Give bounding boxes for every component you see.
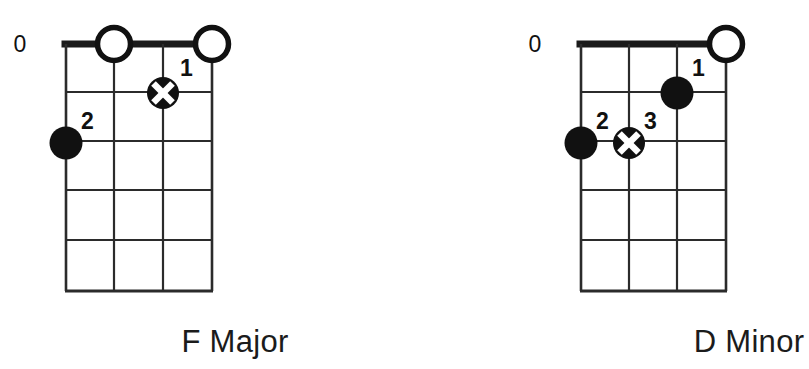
- open-string-indicator-label: 0: [14, 31, 27, 57]
- finger-marker-1: 1: [147, 55, 193, 109]
- chord-name-label: F Major: [46, 322, 424, 362]
- chord-diagram-d-minor: 0 1 2 3 D Minor: [378, 0, 756, 369]
- finger-marker-3: 3: [613, 108, 657, 159]
- finger-marker-2: 2: [50, 108, 94, 160]
- filled-marker-circle: [661, 77, 694, 110]
- fretboard-diagram: 0 1 2: [0, 0, 378, 320]
- finger-number-label: 2: [596, 108, 609, 134]
- filled-marker-circle: [565, 127, 598, 160]
- fretboard-grid: [65, 44, 213, 291]
- finger-number-label: 2: [81, 108, 94, 134]
- finger-marker-2: 2: [565, 108, 609, 160]
- open-string-circle: [710, 28, 743, 61]
- finger-number-label: 3: [644, 108, 657, 134]
- open-string-indicator-label: 0: [529, 31, 542, 57]
- fretboard-grid: [580, 44, 727, 291]
- finger-number-label: 1: [180, 55, 193, 81]
- finger-number-label: 1: [692, 55, 705, 81]
- finger-marker-1: 1: [661, 55, 706, 110]
- chord-name-label: D Minor: [560, 322, 809, 362]
- open-string-circle: [196, 28, 229, 61]
- open-string-circle: [98, 28, 131, 61]
- fretboard-diagram: 0 1 2 3: [378, 0, 756, 320]
- chord-diagram-f-major: 0 1 2 F Major: [0, 0, 378, 369]
- filled-marker-circle: [50, 127, 83, 160]
